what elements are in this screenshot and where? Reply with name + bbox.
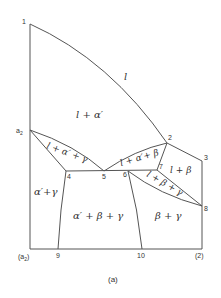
point-label-6: 6 bbox=[123, 171, 127, 178]
line-4-7 bbox=[66, 170, 157, 171]
axis-right-label: (2) bbox=[195, 252, 204, 260]
point-label-a2: a2 bbox=[16, 127, 23, 136]
line-4-9 bbox=[58, 171, 66, 249]
line-2-3 bbox=[167, 143, 202, 161]
point-label-10: 10 bbox=[137, 252, 145, 259]
phase-diagram: 1 a2 2 3 4 5 6 7 8 9 10 (a2) (2) l l + α… bbox=[0, 0, 221, 298]
point-label-9: 9 bbox=[56, 252, 60, 259]
region-liquid: l bbox=[124, 71, 127, 82]
liquidus-curve bbox=[30, 24, 167, 143]
region-alpha-beta-gamma: α′ + β + γ bbox=[73, 210, 123, 221]
region-alpha-gamma: α′+γ bbox=[34, 186, 57, 197]
region-l-alpha: l + α′ bbox=[76, 109, 104, 120]
point-label-5: 5 bbox=[102, 173, 106, 180]
point-label-4: 4 bbox=[67, 173, 71, 180]
figure-caption: (a) bbox=[108, 275, 118, 284]
region-l-alpha-beta: l + α′+ β bbox=[119, 147, 160, 168]
region-l-beta: l + β bbox=[170, 165, 191, 175]
point-label-1: 1 bbox=[22, 18, 26, 25]
point-label-3: 3 bbox=[204, 154, 208, 161]
line-6-10 bbox=[128, 171, 142, 249]
region-l-alpha-gamma: l + α′ + γ bbox=[45, 140, 89, 164]
axis-left-label: (a2) bbox=[18, 253, 29, 262]
point-label-2: 2 bbox=[168, 134, 172, 141]
point-label-8: 8 bbox=[204, 205, 208, 212]
point-label-7: 7 bbox=[159, 163, 163, 170]
region-beta-gamma: β + γ bbox=[154, 210, 182, 221]
